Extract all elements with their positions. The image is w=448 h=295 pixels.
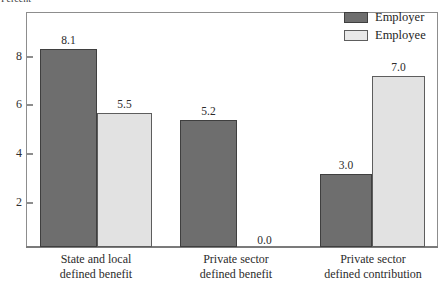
bar-employer-state-local-defined-benefit: [40, 49, 97, 247]
category-label-private-sector-defined-contribution: Private sector defined contribution: [298, 252, 448, 281]
y-tick-mark-2: [26, 202, 33, 204]
category-label-state-local-defined-benefit: State and local defined benefit: [25, 252, 167, 281]
y-tick-label-4-wrap: 4: [0, 147, 22, 159]
bar-value-employee-private-sector-defined-benefit: 0.0: [237, 234, 292, 246]
bar-employee-state-local-defined-benefit: [97, 113, 152, 247]
y-tick-mark-6: [26, 104, 33, 106]
bar-employee-private-sector-defined-contribution: [372, 76, 425, 247]
category-label-line-1: Private sector: [298, 252, 448, 267]
category-label-private-sector-defined-benefit: Private sector defined benefit: [165, 252, 307, 281]
bar-employer-private-sector-defined-contribution: [320, 174, 372, 247]
y-tick-label-2: 2: [0, 196, 22, 208]
bar-value-employer-state-local-defined-benefit: 8.1: [40, 34, 97, 46]
y-tick-label-8: 8: [0, 50, 22, 62]
legend-swatch-employee: [344, 30, 368, 41]
category-label-line-2: defined benefit: [25, 267, 167, 282]
legend: Employer Employee: [344, 10, 444, 46]
legend-swatch-employer: [344, 12, 368, 23]
bar-value-employee-state-local-defined-benefit: 5.5: [97, 98, 152, 110]
category-label-line-1: State and local: [25, 252, 167, 267]
y-tick-label-8-wrap: 8: [0, 50, 22, 62]
bar-value-employer-private-sector-defined-contribution: 3.0: [320, 159, 372, 171]
bar-chart: Percent 8 6 4 2 8.1 5.5 State and local …: [0, 0, 448, 295]
y-tick-label-4: 4: [0, 147, 22, 159]
y-axis-title: Percent: [1, 0, 31, 4]
category-label-line-1: Private sector: [165, 252, 307, 267]
category-label-line-2: defined contribution: [298, 267, 448, 282]
y-tick-label-6-wrap: 6: [0, 98, 22, 110]
y-tick-mark-4: [26, 153, 33, 155]
legend-label-employer: Employer: [375, 10, 424, 25]
y-tick-mark-8: [26, 56, 33, 58]
y-tick-label-2-wrap: 2: [0, 196, 22, 208]
bar-employer-private-sector-defined-benefit: [180, 120, 237, 247]
legend-item-employee: Employee: [344, 28, 444, 44]
category-label-line-2: defined benefit: [165, 267, 307, 282]
legend-label-employee: Employee: [375, 28, 426, 43]
y-tick-label-6: 6: [0, 98, 22, 110]
bar-value-employee-private-sector-defined-contribution: 7.0: [372, 61, 425, 73]
legend-item-employer: Employer: [344, 10, 444, 26]
bar-value-employer-private-sector-defined-benefit: 5.2: [180, 105, 237, 117]
